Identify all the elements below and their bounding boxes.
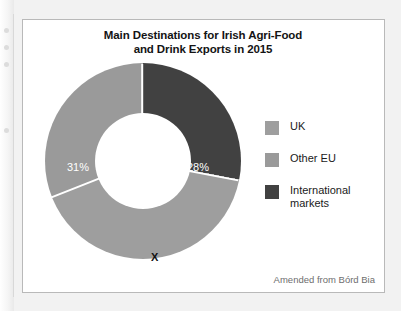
legend-label-uk: UK bbox=[290, 120, 305, 133]
donut-center-hole bbox=[95, 113, 191, 209]
page-edge-mark bbox=[4, 62, 9, 67]
donut-chart: 31% 28% X bbox=[23, 53, 255, 281]
chart-title: Main Destinations for Irish Agri-Food an… bbox=[53, 28, 353, 56]
legend-swatch-icon bbox=[265, 185, 279, 199]
page-edge-mark bbox=[4, 45, 9, 50]
legend-label-international-markets: International markets bbox=[290, 184, 380, 209]
chart-title-line-1: Main Destinations for Irish Agri-Food bbox=[53, 28, 353, 42]
chart-source-note: Amended from Bórd Bia bbox=[274, 274, 375, 285]
slice-label-other-eu: 31% bbox=[67, 161, 89, 173]
legend-label-other-eu: Other EU bbox=[290, 152, 336, 165]
page-edge-rule bbox=[13, 14, 14, 297]
slice-label-uk-unknown: X bbox=[151, 251, 158, 263]
chart-figure: Main Destinations for Irish Agri-Food an… bbox=[22, 19, 385, 293]
legend-swatch-icon bbox=[265, 121, 279, 135]
legend-item-international-markets: International markets bbox=[265, 184, 380, 209]
chart-legend: UK Other EU International markets bbox=[265, 120, 380, 226]
page-edge-mark bbox=[4, 128, 9, 133]
page-edge-mark bbox=[4, 28, 9, 33]
legend-item-other-eu: Other EU bbox=[265, 152, 380, 167]
legend-swatch-icon bbox=[265, 153, 279, 167]
slice-label-international-markets: 28% bbox=[187, 161, 209, 173]
legend-item-uk: UK bbox=[265, 120, 380, 135]
